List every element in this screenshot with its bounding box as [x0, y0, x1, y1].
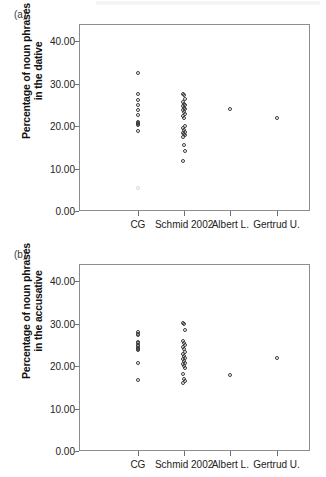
- y-axis-ticks-a: 0.0010.0020.0030.0040.00: [25, 24, 75, 211]
- y-tick-mark: [74, 211, 79, 212]
- data-point: [136, 123, 140, 127]
- x-tick-label-gertrud-u: Gertrud U.: [253, 219, 300, 230]
- data-point: [182, 116, 186, 120]
- data-point: [136, 103, 140, 107]
- data-point: [183, 366, 187, 370]
- data-point: [136, 333, 140, 337]
- y-tick-mark: [74, 366, 79, 367]
- y-tick-label: 30.00: [29, 318, 75, 329]
- x-tick-mark: [277, 451, 278, 456]
- y-tick-label: 0.00: [29, 206, 75, 217]
- data-point: [182, 322, 186, 326]
- y-tick-mark: [74, 169, 79, 170]
- chart-panel-a: (a) Percentage of noun phrases in the da…: [0, 0, 326, 240]
- data-point: [183, 328, 187, 332]
- y-tick-label: 40.00: [29, 36, 75, 47]
- y-tick-mark: [74, 41, 79, 42]
- data-point: [181, 159, 185, 163]
- data-point: [136, 348, 140, 352]
- data-point: [136, 113, 140, 117]
- data-point: [228, 373, 232, 377]
- y-tick-label: 30.00: [29, 78, 75, 89]
- x-tick-mark: [184, 451, 185, 456]
- x-tick-label-cg: CG: [130, 459, 145, 470]
- data-point: [136, 378, 140, 382]
- y-tick-label: 10.00: [29, 163, 75, 174]
- y-tick-label: 20.00: [29, 361, 75, 372]
- data-point: [228, 107, 232, 111]
- x-tick-label-cg: CG: [130, 219, 145, 230]
- data-point: [183, 149, 187, 153]
- x-tick-mark: [138, 451, 139, 456]
- data-point: [136, 186, 140, 190]
- x-tick-label-albert-l: Albert L.: [212, 459, 249, 470]
- y-tick-label: 40.00: [29, 276, 75, 287]
- x-tick-mark: [277, 211, 278, 216]
- data-point: [181, 381, 185, 385]
- y-tick-mark: [74, 281, 79, 282]
- y-tick-label: 10.00: [29, 403, 75, 414]
- data-point: [136, 108, 140, 112]
- x-tick-mark: [230, 451, 231, 456]
- x-tick-label-schmid-2002: Schmid 2002: [155, 459, 213, 470]
- x-tick-mark: [138, 211, 139, 216]
- data-point: [136, 361, 140, 365]
- data-point: [182, 143, 186, 147]
- y-tick-label: 20.00: [29, 121, 75, 132]
- x-tick-label-albert-l: Albert L.: [212, 219, 249, 230]
- data-point: [181, 372, 185, 376]
- y-tick-mark: [74, 324, 79, 325]
- y-tick-mark: [74, 126, 79, 127]
- data-point: [136, 92, 140, 96]
- data-point: [275, 116, 279, 120]
- chart-panel-b: (b) Percentage of noun phrases in the ac…: [0, 240, 326, 477]
- y-tick-mark: [74, 409, 79, 410]
- x-tick-label-schmid-2002: Schmid 2002: [155, 219, 213, 230]
- plot-area-a: [79, 24, 310, 211]
- data-point: [181, 135, 185, 139]
- x-tick-label-gertrud-u: Gertrud U.: [253, 459, 300, 470]
- data-point: [275, 356, 279, 360]
- plot-area-b: [79, 264, 310, 451]
- x-tick-mark: [230, 211, 231, 216]
- y-tick-mark: [74, 84, 79, 85]
- x-tick-mark: [184, 211, 185, 216]
- y-tick-mark: [74, 451, 79, 452]
- y-tick-label: 0.00: [29, 446, 75, 457]
- data-point: [136, 98, 140, 102]
- y-axis-ticks-b: 0.0010.0020.0030.0040.00: [25, 264, 75, 451]
- data-point: [136, 129, 140, 133]
- data-point: [136, 71, 140, 75]
